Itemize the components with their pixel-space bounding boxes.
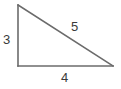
hypotenuse-line xyxy=(18,5,113,66)
side-label-hypotenuse: 5 xyxy=(71,20,78,33)
triangle-diagram: 3 5 4 xyxy=(0,0,121,89)
side-label-horizontal-leg: 4 xyxy=(61,71,68,84)
side-label-vertical-leg: 3 xyxy=(3,33,10,46)
